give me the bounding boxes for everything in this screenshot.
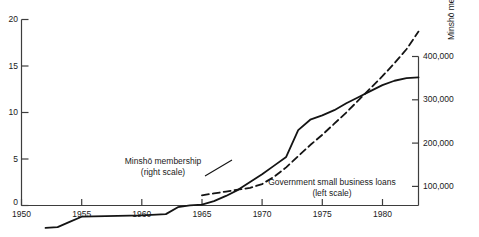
x-tick-label-1950: 1950 [2,210,42,219]
loans-annotation: Government small business loans (left sc… [258,177,406,199]
y-left-tick-label-15: 15 [0,62,18,71]
y-right-tick-label-200000: 200,000 [423,139,454,148]
x-tick-label-1960: 1960 [122,210,162,219]
x-tick-label-1975: 1975 [302,210,342,219]
loans-annotation-line1: Government small business loans [258,177,406,188]
y-right-tick-label-400000: 400,000 [423,52,454,61]
right-axis-ticks [412,57,419,187]
x-tick-label-1965: 1965 [182,210,222,219]
y-left-tick-label-10: 10 [0,108,18,117]
chart-figure: 20 15 10 5 0 400,000 300,000 200,000 100… [0,0,479,237]
x-tick-label-1980: 1980 [363,210,403,219]
x-tick-label-1955: 1955 [62,210,102,219]
right-axis-title: Minshō membership [447,0,456,40]
minsho-annotation-line1: Minshō membership [104,156,222,167]
x-tick-label-1970: 1970 [242,210,282,219]
minsho-annotation: Minshō membership (right scale) [104,156,222,178]
y-left-tick-label-0: 0 [0,198,18,207]
y-left-tick-label-5: 5 [0,155,18,164]
loans-annotation-line2: (left scale) [258,188,406,199]
y-right-tick-label-300000: 300,000 [423,95,454,104]
chart-plot-area [0,0,479,237]
left-axis-ticks [22,20,29,206]
minsho-annotation-line2: (right scale) [104,167,222,178]
y-right-tick-label-100000: 100,000 [423,182,454,191]
y-left-tick-label-20: 20 [0,15,18,24]
series-line-government-small-business-loans [202,32,419,196]
